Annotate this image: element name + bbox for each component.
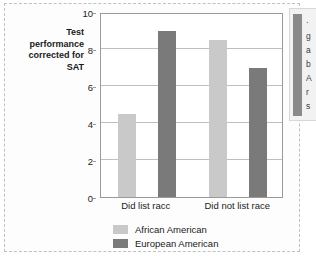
y-tick-mark: [93, 87, 96, 88]
legend-label: European American: [135, 238, 218, 249]
y-tick-mark: [93, 161, 96, 162]
bar: [249, 68, 267, 198]
y-axis-ticks: 0246810: [74, 13, 96, 198]
y-axis-caption-line-1: Test: [8, 27, 84, 39]
bar: [158, 31, 176, 198]
side-panel-accent-bar: [293, 14, 302, 116]
y-tick-mark: [93, 198, 96, 199]
side-panel-text-line: b: [306, 57, 316, 71]
side-panel-text-line: a: [306, 43, 316, 57]
legend-label: African American: [135, 224, 207, 235]
side-panel-text-line: s: [306, 99, 316, 113]
side-panel: ·gabArs: [289, 8, 316, 121]
y-axis-caption-line-4: SAT: [8, 62, 84, 74]
side-panel-text-line: ·: [306, 15, 316, 29]
bar: [118, 114, 136, 197]
gridline: [101, 48, 282, 49]
bar: [209, 40, 227, 197]
legend-item: European American: [113, 236, 218, 250]
side-panel-text-line: A: [306, 71, 316, 85]
y-tick-mark: [93, 50, 96, 51]
y-axis-caption-line-3: corrected for: [8, 50, 84, 62]
side-panel-text-line: r: [306, 85, 316, 99]
side-panel-clipped-text: ·gabArs: [306, 15, 316, 113]
plot-area: [100, 13, 283, 198]
y-tick-mark: [93, 13, 96, 14]
y-tick-mark: [93, 124, 96, 125]
y-axis-caption: Test performance corrected for SAT: [8, 27, 84, 73]
y-tick-label: 10: [82, 8, 93, 19]
side-panel-text-line: g: [306, 29, 316, 43]
legend-item: African American: [113, 222, 218, 236]
chart-legend: African AmericanEuropean American: [113, 222, 218, 250]
legend-swatch: [113, 225, 128, 234]
y-axis-caption-line-2: performance: [8, 39, 84, 51]
x-axis-label: Did not list race: [177, 200, 297, 211]
legend-swatch: [113, 239, 128, 248]
